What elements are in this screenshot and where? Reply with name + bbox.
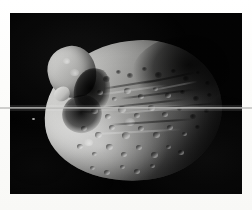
screenshot-root: Grayscale spacecraft photograph of an ir… bbox=[0, 0, 252, 210]
moon-figure bbox=[10, 13, 242, 194]
bright-speck-artifact bbox=[32, 118, 35, 120]
planetary-moon-photograph bbox=[10, 13, 242, 194]
